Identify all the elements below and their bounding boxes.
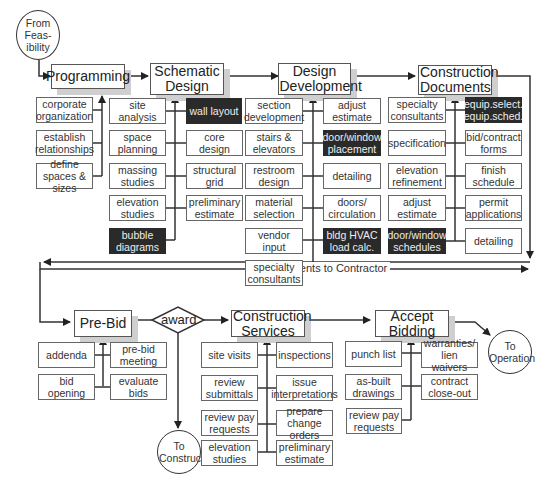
task-label: permit applications — [466, 196, 521, 220]
task-label: corporate organization — [36, 98, 93, 122]
task-label: elevation refinement — [390, 164, 444, 188]
task-label: preliminary estimate — [278, 441, 331, 465]
task-label: finish schedule — [467, 164, 520, 188]
task-permit-applications: permit applications — [465, 195, 522, 221]
task-cd-specialty-consultants: specialty consultants — [388, 97, 446, 123]
task-wall-layout: wall layout — [186, 98, 242, 124]
task-core-design: core design — [186, 130, 243, 156]
task-cs-preliminary-estimate: preliminary estimate — [276, 440, 333, 466]
task-define-spaces: define spaces & sizes — [36, 163, 93, 189]
task-label: bldg HVAC load calc. — [325, 229, 379, 253]
task-space-planning: space planning — [109, 130, 166, 156]
phase-label: Accept Bidding — [382, 309, 442, 339]
task-label: define spaces & sizes — [38, 158, 91, 194]
task-label: space planning — [111, 131, 164, 155]
task-label: prepare change orders — [278, 405, 331, 441]
task-inspections: inspections — [276, 342, 333, 368]
task-section-development: section development — [245, 98, 303, 124]
task-material-selection: material selection — [245, 195, 303, 221]
task-pre-bid-meeting: pre-bid meeting — [110, 342, 167, 368]
to-construct-node: To Construct — [157, 430, 201, 474]
task-preliminary-estimate: preliminary estimate — [186, 195, 243, 221]
task-label: adjust estimate — [390, 196, 444, 220]
task-detailing: detailing — [323, 163, 381, 189]
task-bid-contract-forms: bid/contract forms — [465, 130, 522, 156]
task-label: review pay requests — [348, 409, 400, 433]
task-label: review pay requests — [203, 411, 256, 435]
from-feasibility-label: From Feas- ibility — [21, 17, 55, 53]
task-label: equip.select. equip.sched. — [464, 98, 524, 122]
phase-design-development: Design Development — [278, 63, 351, 95]
task-label: detailing — [474, 235, 513, 247]
task-cs-review-pay-requests: review pay requests — [201, 410, 258, 436]
phase-programming: Programming — [51, 64, 125, 89]
task-specialty-consultants: specialty consultants — [245, 260, 303, 286]
task-door-window-placement: door/window placement — [323, 130, 381, 156]
phase-label: Pre-Bid — [80, 316, 127, 331]
task-evaluate-bids: evaluate bids — [110, 374, 167, 400]
task-cs-elevation-studies: elevation studies — [201, 440, 258, 466]
task-review-submittals: review submittals — [201, 375, 258, 401]
task-label: bid/contract forms — [466, 131, 520, 155]
task-site-visits: site visits — [201, 342, 258, 368]
task-label: structural grid — [188, 164, 241, 188]
task-label: doors/ circulation — [325, 196, 379, 220]
task-label: specialty consultants — [390, 98, 444, 122]
task-label: evaluate bids — [112, 375, 165, 399]
task-label: punch list — [351, 348, 395, 360]
task-label: specialty consultants — [247, 261, 301, 285]
task-specification: specification — [388, 130, 446, 156]
task-structural-grid: structural grid — [186, 163, 243, 189]
task-label: review submittals — [203, 376, 256, 400]
task-label: material selection — [247, 196, 301, 220]
phase-label: Construction Documents — [420, 65, 490, 95]
task-label: addenda — [46, 349, 87, 361]
to-construct-label: To Construct — [159, 440, 199, 464]
task-doors-circulation: doors/ circulation — [323, 195, 381, 221]
task-bubble-diagrams: bubble diagrams — [109, 228, 166, 254]
task-as-built-drawings: as-built drawings — [345, 374, 402, 400]
task-label: bubble diagrams — [111, 229, 164, 253]
task-label: detailing — [332, 170, 371, 182]
task-label: elevation studies — [203, 441, 256, 465]
task-label: vendor input — [247, 229, 301, 253]
task-label: inspections — [278, 349, 331, 361]
phase-construction-documents: Construction Documents — [418, 65, 492, 95]
phase-label: Schematic Design — [154, 64, 220, 94]
phase-label: Design Development — [280, 64, 350, 94]
task-elevation-refinement: elevation refinement — [388, 163, 446, 189]
task-punch-list: punch list — [345, 341, 402, 367]
phase-pre-bid: Pre-Bid — [74, 310, 132, 337]
task-label: restroom design — [247, 164, 301, 188]
task-adjust-estimate: adjust estimate — [323, 98, 381, 124]
task-label: site analysis — [111, 99, 164, 123]
phase-accept-bidding: Accept Bidding — [375, 310, 449, 337]
task-cd-adjust-estimate: adjust estimate — [388, 195, 446, 221]
task-elevation-studies: elevation studies — [109, 195, 166, 221]
task-label: issue interpretations — [271, 376, 338, 400]
task-label: preliminary estimate — [188, 196, 241, 220]
task-label: core design — [188, 131, 241, 155]
task-label: warranties/ lien waivers — [423, 337, 476, 373]
task-label: as-built drawings — [347, 375, 400, 399]
task-stairs-elevators: stairs & elevators — [245, 130, 303, 156]
task-label: specification — [388, 137, 446, 149]
task-vendor-input: vendor input — [245, 228, 303, 254]
task-corporate-organization: corporate organization — [36, 97, 93, 123]
task-addenda: addenda — [38, 342, 95, 368]
task-label: contract close-out — [423, 375, 476, 399]
task-label: door/window placement — [323, 131, 382, 155]
phase-schematic-design: Schematic Design — [150, 63, 224, 95]
task-finish-schedule: finish schedule — [465, 163, 522, 189]
task-bid-opening: bid opening — [38, 374, 95, 400]
task-label: section development — [244, 99, 304, 123]
to-operation-label: To Operation — [489, 340, 531, 364]
task-warranties-lien-waivers: warranties/ lien waivers — [421, 342, 478, 368]
phase-label: Construction Services — [233, 309, 303, 339]
task-label: adjust estimate — [325, 99, 379, 123]
task-door-window-schedules: door/window schedules — [388, 228, 446, 254]
task-label: site visits — [208, 349, 251, 361]
task-ab-review-pay-requests: review pay requests — [346, 408, 402, 434]
award-decision-label: award — [161, 312, 196, 327]
task-contract-close-out: contract close-out — [421, 374, 478, 400]
